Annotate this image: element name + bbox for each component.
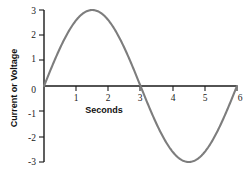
- y-axis-tick-labels: 3 2 1 0 -1 -2 -3: [28, 6, 36, 167]
- chart-plot-area: Current or Voltage 3 2 1 0 -1 -2 -3: [0, 0, 250, 172]
- x-tick-label: 3: [138, 93, 143, 103]
- y-tick-label: -1: [28, 109, 36, 119]
- y-axis-title: Current or Voltage: [9, 49, 19, 127]
- y-tick-label: -3: [28, 157, 36, 167]
- x-axis-title: Seconds: [85, 105, 123, 115]
- y-tick-label: 3: [31, 6, 36, 16]
- x-axis-ticks: [76, 86, 237, 91]
- x-axis-tick-labels: 1 2 3 4 5 6: [74, 93, 243, 103]
- x-tick-label: 4: [171, 93, 176, 103]
- x-tick-label: 1: [74, 93, 79, 103]
- y-tick-label: 1: [31, 54, 36, 64]
- y-tick-label: -2: [28, 133, 36, 143]
- sine-wave-chart-figure: Current or Voltage 3 2 1 0 -1 -2 -3: [0, 0, 250, 172]
- y-tick-label: 2: [31, 30, 36, 40]
- x-tick-label: 5: [203, 93, 208, 103]
- y-tick-label: 0: [31, 85, 36, 95]
- x-tick-label: 6: [238, 93, 243, 103]
- x-tick-label: 2: [106, 93, 111, 103]
